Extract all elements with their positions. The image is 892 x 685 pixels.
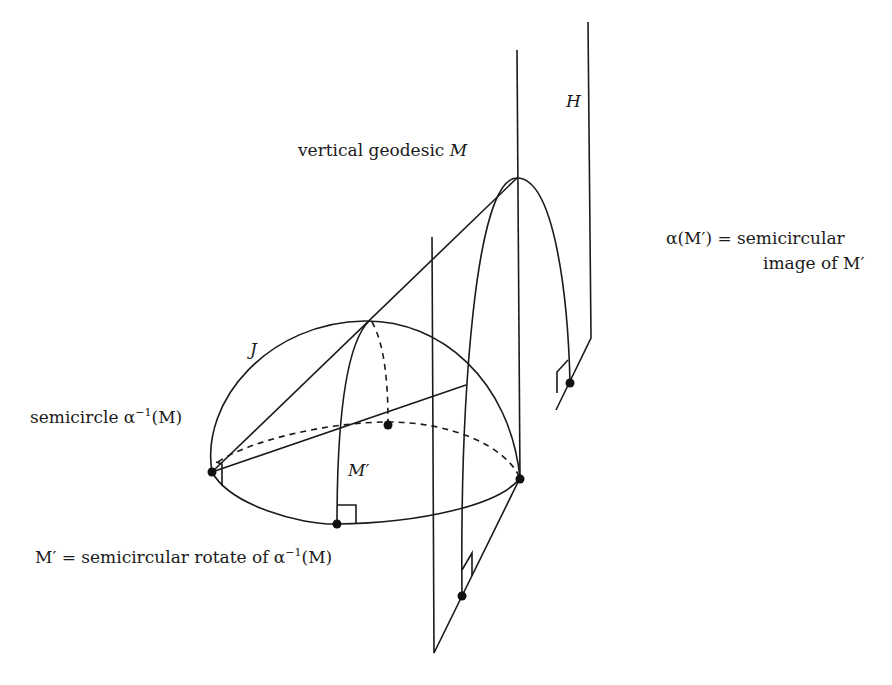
label-m-prime-def-arg: (M) bbox=[302, 547, 333, 567]
point-center bbox=[384, 421, 393, 430]
point-h bbox=[566, 379, 575, 388]
label-m-prime: M′ bbox=[348, 462, 369, 479]
label-semicircle-text: semicircle α bbox=[30, 407, 135, 427]
label-semicircle-sup: −1 bbox=[135, 406, 151, 419]
point-left bbox=[208, 468, 217, 477]
plane-left-edge bbox=[432, 237, 520, 653]
label-alpha-m-prime-line1: α(M′) = semicircular bbox=[666, 230, 845, 247]
point-lower bbox=[458, 592, 467, 601]
label-j: J bbox=[250, 341, 257, 358]
label-m-prime-definition: M′ = semicircular rotate of α−1(M) bbox=[35, 547, 332, 566]
label-h: H bbox=[566, 93, 581, 110]
label-vertical-geodesic-var: M bbox=[450, 140, 467, 160]
label-vertical-geodesic: vertical geodesic M bbox=[298, 142, 467, 159]
label-m-prime-def-text: M′ = semicircular rotate of α bbox=[35, 547, 285, 567]
vertical-geodesic-m bbox=[517, 50, 520, 478]
point-right bbox=[516, 475, 525, 484]
hemisphere-diagram bbox=[0, 0, 892, 685]
hemisphere-dashed-radius bbox=[372, 322, 388, 422]
plane-h-edge bbox=[556, 22, 591, 410]
right-angle-lower bbox=[462, 553, 472, 576]
label-semicircle-inverse: semicircle α−1(M) bbox=[30, 407, 182, 426]
m-prime-arc bbox=[337, 321, 369, 524]
hemisphere-arc-j bbox=[211, 321, 520, 478]
alpha-m-prime-arc bbox=[462, 178, 570, 596]
label-m-prime-def-sup: −1 bbox=[285, 546, 301, 559]
label-alpha-m-prime-line2: image of M′ bbox=[763, 255, 864, 272]
label-semicircle-arg: (M) bbox=[152, 407, 183, 427]
point-bottom-m-prime bbox=[333, 520, 342, 529]
label-vertical-geodesic-text: vertical geodesic bbox=[298, 140, 450, 160]
